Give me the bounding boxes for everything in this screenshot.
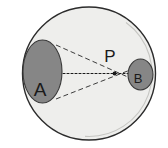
ellipse-a-label: A — [34, 79, 47, 100]
ellipse-b-label: B — [134, 71, 143, 86]
point-p-marker — [113, 72, 117, 76]
optics-diagram: A B P — [0, 0, 168, 148]
diagram-canvas: A B P — [0, 0, 168, 148]
point-p-label: P — [104, 47, 115, 66]
